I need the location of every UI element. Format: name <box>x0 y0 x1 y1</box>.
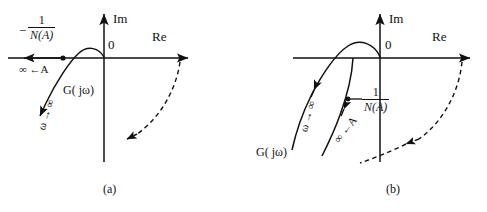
panel-b-real-axis-label: Re <box>432 30 446 43</box>
panel-a-g-jw-label: G( jω) <box>63 84 94 96</box>
panel-a-neg-inv-n-denominator: N(A) <box>28 29 55 41</box>
figure-vector-layer <box>0 0 487 212</box>
panel-a-neg-inv-n-label: 1 N(A) <box>28 14 55 41</box>
panel-b-neg-inv-n-label: 1 N(A) <box>362 86 389 113</box>
panel-b-caption: (b) <box>386 183 400 195</box>
panel-a-neg-inv-n-point <box>60 55 65 60</box>
panel-b-g-curve-mirror-lower <box>360 144 406 163</box>
panel-b-neg-inv-n-curve <box>340 58 353 115</box>
panel-b-neg-inv-n-denominator: N(A) <box>362 101 389 113</box>
panel-a-neg-inv-n-minus-sign: − <box>19 23 26 39</box>
panel-b-origin-label: 0 <box>385 38 392 51</box>
panel-b-imaginary-axis-label: Im <box>389 12 403 25</box>
panel-a-real-axis-label: Re <box>152 30 166 43</box>
panel-a-a-to-infinity-label: ∞ ←A <box>19 64 49 75</box>
panel-b-g-curve-mirror <box>419 62 462 139</box>
panel-b-neg-inv-n-numerator: 1 <box>362 86 389 98</box>
panel-a-caption: (a) <box>103 183 116 195</box>
panel-b-g-jw-label: G( jω) <box>256 146 287 158</box>
panel-a-g-curve-mirror <box>137 62 180 134</box>
figure-container: Im Re 0 − 1 N(A) ∞ ←A G( jω) ω → ∞ Im Re… <box>0 0 487 212</box>
panel-a-imaginary-axis-label: Im <box>113 12 127 25</box>
panel-b-g-curve-mirror-tail <box>406 139 419 144</box>
panel-a-origin-label: 0 <box>108 38 115 51</box>
panel-a-neg-inv-n-numerator: 1 <box>28 14 55 26</box>
panel-a-g-curve-mirror-tail <box>127 134 137 139</box>
